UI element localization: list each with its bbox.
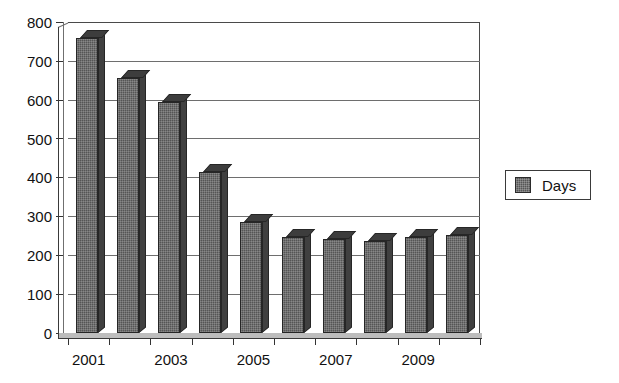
bar-front-face [405,237,427,333]
bar-front-face [240,222,262,333]
x-tick-mark [356,339,357,345]
bar [76,38,98,333]
bar-side-face [98,32,105,333]
x-tick-label: 2005 [231,352,275,367]
x-tick-label: 2003 [149,352,193,367]
bar-top-face [203,164,232,172]
x-tick-mark [398,339,399,345]
y-tick-label: 0 [44,326,52,341]
bar-front-face [117,78,139,333]
x-tick-mark [233,339,234,345]
y-tick-label: 700 [27,54,52,69]
bar-front-face [364,241,386,333]
legend-swatch-days [515,177,531,193]
bar-top-face [409,229,438,237]
bar-chart: 800 700 600 500 400 300 200 100 0 20 [0,0,619,383]
axis-front-wall-edge [63,22,64,333]
legend-label-days: Days [542,178,576,193]
bar-front-face [282,237,304,333]
bar-front-face [446,235,468,333]
x-tick-mark [109,339,110,345]
x-tick-mark [480,339,481,345]
x-tick-mark [274,339,275,345]
x-axis-line [58,338,482,339]
x-tick-mark [192,339,193,345]
bars-layer [68,22,480,333]
x-tick-label: 2007 [314,352,358,367]
bar-side-face [386,235,393,333]
x-tick-label: 2001 [67,352,111,367]
x-tick-mark [315,339,316,345]
x-tick-label: 2009 [396,352,440,367]
bar-front-face [323,239,345,333]
bar [405,237,427,333]
bar [158,102,180,333]
bar-front-face [76,38,98,333]
bar-front-face [158,102,180,333]
bar-side-face [427,232,434,333]
bar [282,237,304,333]
bar [446,235,468,333]
y-tick-label: 300 [27,209,52,224]
bar-front-face [199,172,221,333]
bar [240,222,262,333]
bar-side-face [180,97,187,333]
bar [364,241,386,333]
bar [323,239,345,333]
y-tick-label: 600 [27,93,52,108]
bar-top-face [244,214,273,222]
bar-side-face [468,229,475,333]
y-tick-label: 100 [27,287,52,302]
y-tick-label: 800 [27,15,52,30]
y-tick-label: 500 [27,132,52,147]
y-tick-mark [56,22,63,23]
x-tick-mark [68,339,69,345]
bar-side-face [262,216,269,333]
y-axis-line [58,27,59,338]
bar-side-face [345,233,352,333]
y-axis-labels: 800 700 600 500 400 300 200 100 0 [0,0,52,383]
x-tick-mark [439,339,440,345]
bar [117,78,139,333]
bar-side-face [304,231,311,333]
y-tick-label: 400 [27,170,52,185]
plot-area [68,22,480,333]
bar-side-face [139,73,146,333]
x-tick-mark [150,339,151,345]
bar-side-face [221,166,228,333]
bar [199,172,221,333]
legend: Days [505,170,591,200]
y-tick-label: 200 [27,248,52,263]
bar-top-face [450,227,479,235]
